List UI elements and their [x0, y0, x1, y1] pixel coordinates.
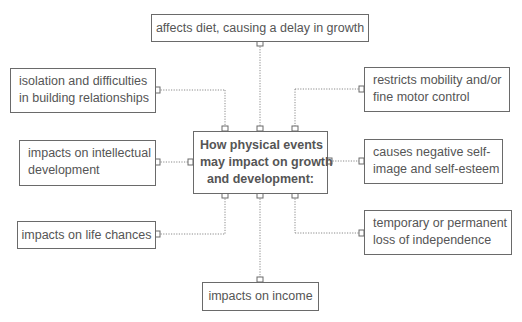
- node-negative-self-image: causes negative self- image and self-est…: [364, 139, 503, 184]
- node-restricts-mobility: restricts mobility and/or fine motor con…: [364, 67, 510, 112]
- node-loss-of-independence: temporary or permanent loss of independe…: [364, 210, 512, 255]
- node-life-chances: impacts on life chances: [17, 221, 156, 249]
- node-isolation: isolation and difficulties in building r…: [10, 68, 156, 113]
- node-loss-of-independence-line-2: loss of independence: [373, 232, 503, 249]
- node-restricts-mobility-line-2: fine motor control: [373, 89, 501, 106]
- node-intellectual-development: impacts on intellectual development: [19, 140, 156, 186]
- node-isolation-line-1: isolation and difficulties: [19, 73, 147, 90]
- node-intellectual-development-line-2: development: [28, 162, 147, 179]
- node-isolation-line-2: in building relationships: [19, 90, 147, 107]
- node-impacts-on-income: impacts on income: [202, 282, 319, 311]
- node-life-chances-text: impacts on life chances: [22, 227, 152, 244]
- central-topic-line-3: and development:: [200, 171, 321, 188]
- node-intellectual-development-line-1: impacts on intellectual: [28, 145, 147, 162]
- node-loss-of-independence-line-1: temporary or permanent: [373, 215, 503, 232]
- node-restricts-mobility-line-1: restricts mobility and/or: [373, 72, 501, 89]
- node-affects-diet-text: affects diet, causing a delay in growth: [156, 20, 364, 37]
- node-impacts-on-income-text: impacts on income: [208, 288, 312, 305]
- central-topic: How physical events may impact on growth…: [193, 131, 328, 194]
- central-topic-line-1: How physical events: [200, 137, 321, 154]
- central-topic-line-2: may impact on growth: [200, 154, 321, 171]
- node-negative-self-image-line-2: image and self-esteem: [373, 161, 494, 178]
- node-affects-diet: affects diet, causing a delay in growth: [151, 14, 369, 42]
- node-negative-self-image-line-1: causes negative self-: [373, 144, 494, 161]
